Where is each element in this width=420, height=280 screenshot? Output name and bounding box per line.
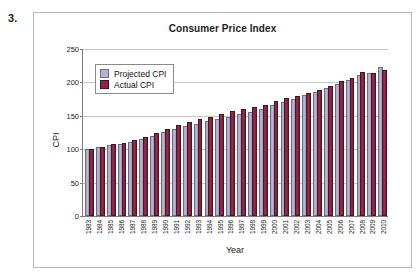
y-axis-tick-label: 0 <box>75 212 79 221</box>
bar-group <box>214 49 225 216</box>
x-axis-tick-label: 1992 <box>183 220 190 234</box>
x-axis-tick-label: 1994 <box>205 220 212 234</box>
x-axis-tick-label: 2002 <box>292 220 299 234</box>
x-axis-tick: 1993 <box>192 219 203 245</box>
x-axis-tick: 1999 <box>258 219 269 245</box>
bar-actual <box>263 105 268 216</box>
y-axis-tick-label: 250 <box>66 45 79 54</box>
x-axis-tick: 1995 <box>214 219 225 245</box>
bar-actual <box>284 98 289 216</box>
bar-group <box>247 49 258 216</box>
x-axis-tick: 2004 <box>312 219 323 245</box>
bar-group <box>301 49 312 216</box>
bar-group <box>355 49 366 216</box>
y-axis-tick-label: 100 <box>66 145 79 154</box>
y-axis-tick-mark <box>80 49 83 50</box>
x-axis-tick: 1997 <box>236 219 247 245</box>
x-axis-tick-label: 1996 <box>227 220 234 234</box>
bar-actual <box>371 73 376 216</box>
x-axis-tick: 2003 <box>301 219 312 245</box>
x-axis-tick-label: 2000 <box>271 220 278 234</box>
legend-item-actual: Actual CPI <box>100 79 166 90</box>
bar-actual <box>382 70 387 216</box>
bar-actual <box>350 78 355 216</box>
bar-actual <box>89 149 94 216</box>
bar-actual <box>143 137 148 216</box>
gridline <box>83 216 388 217</box>
x-axis-tick-label: 2007 <box>347 220 354 234</box>
chart-title: Consumer Price Index <box>34 23 411 34</box>
bar-actual <box>122 143 127 216</box>
x-axis-tick: 2002 <box>291 219 302 245</box>
x-axis-tick-label: 2005 <box>325 220 332 234</box>
x-axis-tick-labels: 1983198419851986198719881989199019911992… <box>83 219 389 245</box>
y-axis-tick-label: 150 <box>66 111 79 120</box>
x-axis-tick: 1989 <box>149 219 160 245</box>
x-axis-tick-label: 1995 <box>216 220 223 234</box>
x-axis-tick-label: 1983 <box>85 220 92 234</box>
bar-actual <box>100 147 105 216</box>
x-axis-tick-label: 1998 <box>249 220 256 234</box>
bar-actual <box>252 107 257 216</box>
x-axis-tick: 1994 <box>203 219 214 245</box>
bar-group <box>312 49 323 216</box>
bar-actual <box>317 90 322 216</box>
x-axis-tick-label: 1985 <box>107 220 114 234</box>
x-axis-tick-label: 2009 <box>369 220 376 234</box>
legend-label-projected: Projected CPI <box>114 69 166 79</box>
bar-actual <box>230 111 235 216</box>
x-axis-tick: 1991 <box>170 219 181 245</box>
x-axis-tick-label: 1997 <box>238 220 245 234</box>
x-axis-tick: 1998 <box>247 219 258 245</box>
x-axis-tick: 1992 <box>181 219 192 245</box>
x-axis-tick: 1987 <box>127 219 138 245</box>
y-axis-tick-label: 50 <box>71 178 79 187</box>
bar-group <box>84 49 95 216</box>
bar-group <box>290 49 301 216</box>
y-axis-tick-mark <box>80 183 83 184</box>
bar-actual <box>241 109 246 216</box>
x-axis-tick: 2008 <box>356 219 367 245</box>
bar-actual <box>165 129 170 216</box>
bar-group <box>279 49 290 216</box>
bar-actual <box>176 125 181 216</box>
x-axis-tick-label: 2001 <box>282 220 289 234</box>
x-axis-tick: 1988 <box>138 219 149 245</box>
x-axis-tick: 2010 <box>378 219 389 245</box>
x-axis-tick-label: 2003 <box>303 220 310 234</box>
bar-actual <box>219 114 224 216</box>
bar-group <box>193 49 204 216</box>
x-axis-tick: 2009 <box>367 219 378 245</box>
y-axis-title: CPI <box>51 132 61 147</box>
x-axis-tick: 1983 <box>83 219 94 245</box>
bar-actual <box>111 144 116 216</box>
x-axis-tick: 2001 <box>280 219 291 245</box>
legend-label-actual: Actual CPI <box>114 80 154 90</box>
bar-actual <box>339 81 344 216</box>
bar-group <box>203 49 214 216</box>
x-axis-tick: 2007 <box>345 219 356 245</box>
bar-group <box>366 49 377 216</box>
x-axis-tick-label: 1989 <box>150 220 157 234</box>
bar-group <box>225 49 236 216</box>
bar-group <box>377 49 388 216</box>
x-axis-tick-label: 2006 <box>336 220 343 234</box>
bar-group <box>269 49 280 216</box>
y-axis-tick-mark <box>80 82 83 83</box>
x-axis-tick-label: 1991 <box>172 220 179 234</box>
y-axis-tick-label: 200 <box>66 78 79 87</box>
bar-actual <box>132 140 137 216</box>
bar-group <box>258 49 269 216</box>
x-axis-tick: 2005 <box>323 219 334 245</box>
bar-group <box>236 49 247 216</box>
bar-actual <box>306 93 311 216</box>
bar-actual <box>328 86 333 216</box>
bar-group <box>334 49 345 216</box>
x-axis-tick-label: 2010 <box>380 220 387 234</box>
bar-actual <box>198 119 203 216</box>
x-axis-tick: 2000 <box>269 219 280 245</box>
x-axis-tick-label: 1988 <box>140 220 147 234</box>
bar-actual <box>360 72 365 216</box>
x-axis-tick: 2006 <box>334 219 345 245</box>
x-axis-tick-label: 1999 <box>260 220 267 234</box>
